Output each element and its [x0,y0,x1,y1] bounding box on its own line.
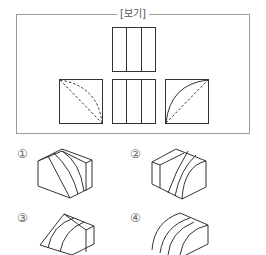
option-2-number[interactable]: ② [130,148,141,160]
option-3-number[interactable]: ③ [17,212,28,224]
left-side-view [60,80,103,124]
option-4-figure[interactable] [152,213,208,255]
option-4-number[interactable]: ④ [130,212,141,224]
option-2-figure[interactable] [152,149,206,199]
option-1-number[interactable]: ① [17,148,28,160]
option-3-figure[interactable] [40,214,94,255]
right-side-view [166,80,209,124]
option-1-figure[interactable] [38,149,92,198]
top-view [113,28,156,72]
front-view [113,80,156,124]
